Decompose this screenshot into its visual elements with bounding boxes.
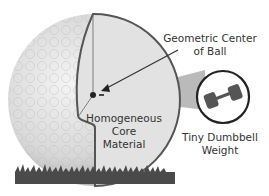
label-homogeneous: Homogeneous — [86, 112, 162, 124]
geometric-center-dot — [90, 92, 96, 98]
label-tiny-dumbbell: Tiny Dumbbell — [181, 131, 258, 143]
label-weight: Weight — [202, 144, 239, 156]
magnifier-circle — [197, 71, 249, 123]
label-material: Material — [103, 138, 146, 150]
tiny-weight-marker — [99, 94, 104, 96]
golf-ball-diagram: Geometric Center of Ball Homogeneous Cor… — [0, 0, 269, 196]
label-of-ball: of Ball — [194, 45, 227, 57]
label-core: Core — [112, 125, 136, 137]
label-geometric-center: Geometric Center — [163, 32, 257, 44]
